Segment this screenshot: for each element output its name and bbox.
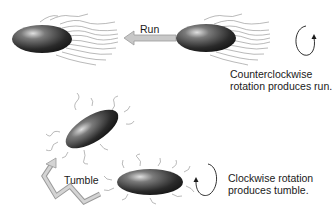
bacterium-run-left — [12, 14, 118, 65]
run-label: Run — [140, 23, 159, 35]
tumble-label: Tumble — [64, 174, 99, 186]
clockwise-caption: Clockwise rotation produces tumble. — [228, 172, 336, 196]
counterclockwise-arrow-icon — [296, 26, 317, 55]
bacterium-tumble-lower — [104, 154, 194, 204]
bacterium-run-right — [176, 14, 270, 65]
counterclockwise-caption: Counterclockwise rotation produces run. — [230, 68, 336, 92]
clockwise-arrow-icon — [194, 164, 217, 196]
bacterium-tumble-upper — [46, 93, 134, 164]
